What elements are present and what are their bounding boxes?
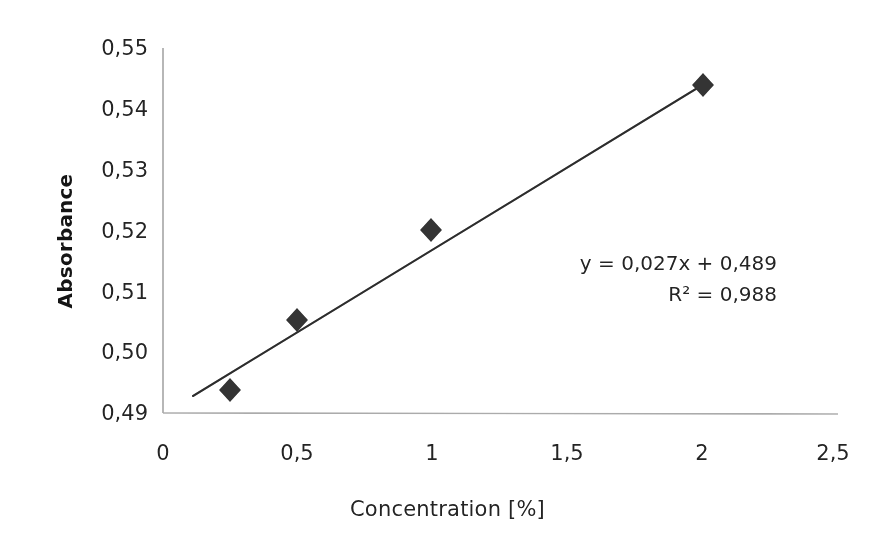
data-point-marker xyxy=(692,73,714,97)
trendline-path xyxy=(193,84,704,396)
calibration-curve-chart: Absorbance 0,55 0,54 0,53 0,52 0,51 0,50… xyxy=(0,0,895,558)
data-point-marker xyxy=(420,218,442,242)
data-point-marker xyxy=(219,378,241,402)
plot-area xyxy=(0,0,895,558)
axis-lines xyxy=(163,48,838,414)
x-axis-line xyxy=(163,413,838,414)
trendline xyxy=(193,84,704,396)
